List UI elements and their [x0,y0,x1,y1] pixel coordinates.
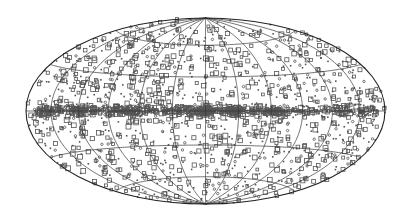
all-sky-map [0,0,407,218]
